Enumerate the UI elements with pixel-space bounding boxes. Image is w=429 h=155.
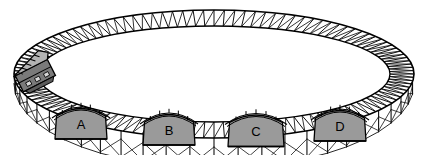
- station-label: C: [251, 124, 260, 139]
- station-label: D: [335, 119, 344, 134]
- figure-root: ABCD: [0, 0, 429, 155]
- station-label: B: [165, 123, 174, 138]
- track-illustration-svg: ABCD: [0, 0, 429, 155]
- station-label: A: [77, 117, 86, 132]
